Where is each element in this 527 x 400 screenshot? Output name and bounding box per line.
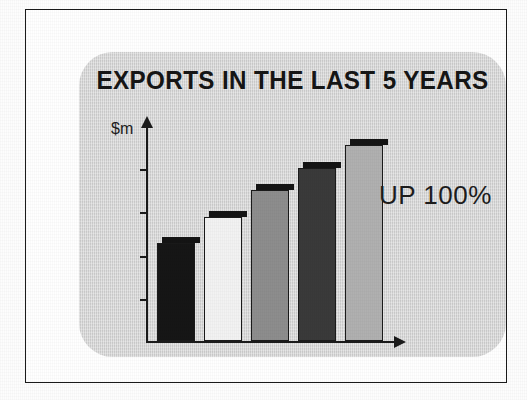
scanned-page: EXPORTS IN THE LAST 5 YEARS $m UP 100%: [0, 0, 527, 400]
bar-1: [157, 243, 195, 341]
y-axis-tick-1: [140, 299, 148, 301]
growth-callout: UP 100%: [379, 180, 492, 211]
y-axis-tick-2: [140, 256, 148, 258]
x-axis-arrowhead-icon: [394, 336, 406, 348]
bar-3: [251, 190, 289, 341]
y-axis-line: [146, 126, 148, 342]
bar-2: [204, 217, 242, 341]
bar-4: [298, 168, 336, 341]
x-axis-line: [146, 341, 396, 343]
y-axis-tick-4: [140, 169, 148, 171]
y-axis-label: $m: [111, 120, 133, 138]
slide-frame-border: EXPORTS IN THE LAST 5 YEARS $m UP 100%: [25, 9, 507, 383]
bar-5: [345, 145, 383, 341]
y-axis-tick-3: [140, 212, 148, 214]
slide-panel: EXPORTS IN THE LAST 5 YEARS $m UP 100%: [79, 52, 506, 357]
